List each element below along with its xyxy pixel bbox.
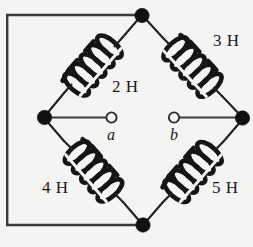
- inductor-label-2h: 2 H: [112, 78, 139, 95]
- circuit-diagram: 2 H 3 H 4 H 5 H a b: [0, 0, 253, 247]
- lead-4h-join-lower: [115, 194, 123, 202]
- lead-5h-join-upper: [215, 142, 223, 150]
- terminal-b-ring[interactable]: [169, 112, 179, 122]
- inductor-label-5h: 5 H: [212, 179, 239, 196]
- inductor-4h-coil: [61, 138, 126, 206]
- terminal-label-a: a: [107, 127, 115, 143]
- inductor-label-3h: 3 H: [213, 32, 240, 49]
- terminal-label-b: b: [170, 127, 178, 143]
- node-top: [135, 8, 149, 22]
- node-left: [37, 110, 51, 124]
- lead-4h-join-upper: [64, 141, 72, 149]
- node-right: [235, 111, 249, 125]
- terminal-a-ring[interactable]: [106, 112, 116, 122]
- lead-5h-join-lower: [163, 194, 171, 202]
- outer-frame-wire: [7, 15, 143, 225]
- inductor-label-4h: 4 H: [42, 179, 69, 196]
- node-bottom: [136, 218, 150, 232]
